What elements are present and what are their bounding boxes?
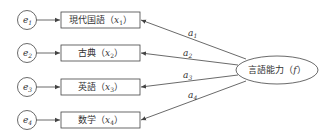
loading-label-a1: a1	[188, 28, 197, 39]
factor-node-f: 言語能力（f）	[236, 56, 318, 84]
svg-text:英語（x3）: 英語（x3）	[78, 81, 123, 93]
error-node-e4: e4	[18, 111, 37, 130]
svg-text:e1: e1	[23, 15, 32, 26]
svg-text:e3: e3	[23, 82, 32, 93]
error-node-e1: e1	[18, 11, 37, 30]
svg-text:言語能力（f）: 言語能力（f）	[248, 64, 305, 75]
path-diagram: e1 現代国語（x1） e2 古典（x2） e3 英語（x3） e4 数学（x4…	[0, 0, 330, 139]
svg-text:数学（x4）: 数学（x4）	[78, 114, 123, 126]
observed-node-x2: 古典（x2）	[61, 45, 140, 61]
loading-label-a4: a4	[188, 90, 197, 101]
svg-text:古典（x2）: 古典（x2）	[78, 47, 123, 59]
svg-text:現代国語（x1）: 現代国語（x1）	[69, 14, 132, 26]
loading-arrow-1	[141, 20, 246, 59]
observed-node-x1: 現代国語（x1）	[61, 12, 140, 28]
observed-node-x4: 数学（x4）	[61, 112, 140, 128]
error-node-e2: e2	[18, 44, 37, 63]
svg-text:e2: e2	[23, 48, 32, 59]
observed-node-x3: 英語（x3）	[61, 79, 140, 95]
svg-text:e4: e4	[23, 115, 32, 126]
error-node-e3: e3	[18, 78, 37, 97]
loading-label-a2: a2	[183, 48, 192, 59]
loading-label-a3: a3	[183, 70, 192, 81]
